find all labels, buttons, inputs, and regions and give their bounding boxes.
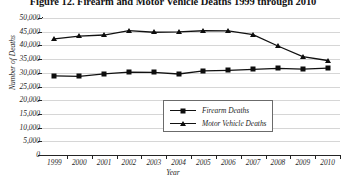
y-tick-mark: [38, 32, 42, 33]
legend-entry-motor-vehicle-deaths: Motor Vehicle Deaths: [164, 117, 272, 130]
legend-marker-square-icon: [168, 105, 198, 117]
x-tick-mark: [340, 155, 341, 159]
y-tick-mark: [38, 87, 42, 88]
data-point-triangle-2007: [250, 31, 256, 36]
y-tick-label: 35,000: [0, 55, 40, 63]
data-point-triangle-1999: [51, 36, 57, 41]
data-point-square-2000: [77, 74, 82, 79]
data-point-square-2006: [226, 68, 231, 73]
y-tick-label: 10,000: [0, 124, 40, 132]
y-tick-label: 25,000: [0, 83, 40, 91]
y-tick-mark: [38, 45, 42, 46]
data-point-triangle-2003: [151, 29, 157, 34]
data-point-triangle-2004: [176, 29, 182, 34]
y-tick-label: 50,000: [0, 14, 40, 22]
data-point-square-2005: [201, 68, 206, 73]
data-point-square-2010: [325, 66, 330, 71]
y-tick-mark: [38, 128, 42, 129]
y-tick-label: 5,000: [0, 137, 40, 145]
data-point-square-2007: [251, 67, 256, 72]
data-point-triangle-2010: [325, 57, 331, 62]
data-point-triangle-2000: [76, 33, 82, 38]
legend-label-motor-vehicle-deaths: Motor Vehicle Deaths: [202, 119, 266, 128]
data-point-triangle-2006: [225, 28, 231, 33]
data-point-square-2008: [275, 66, 280, 71]
legend: Firearm Deaths Motor Vehicle Deaths: [163, 100, 273, 132]
data-point-triangle-2009: [300, 54, 306, 59]
y-tick-label: 40,000: [0, 41, 40, 49]
y-tick-label: 20,000: [0, 96, 40, 104]
y-tick-label: 30,000: [0, 69, 40, 77]
data-point-square-2009: [300, 67, 305, 72]
data-point-square-2003: [151, 70, 156, 75]
data-point-square-1999: [52, 73, 57, 78]
data-point-square-2004: [176, 71, 181, 76]
y-tick-label: 15,000: [0, 110, 40, 118]
y-tick-label: 45,000: [0, 28, 40, 36]
y-tick-mark: [38, 73, 42, 74]
y-tick-mark: [38, 18, 42, 19]
y-tick-mark: [38, 141, 42, 142]
y-tick-label: 0: [0, 151, 40, 159]
data-point-square-2002: [126, 70, 131, 75]
legend-label-firearm-deaths: Firearm Deaths: [202, 106, 249, 115]
y-tick-mark: [38, 59, 42, 60]
figure-container: Figure 12. Firearm and Motor Vehicle Dea…: [0, 0, 346, 179]
data-point-square-2001: [102, 71, 107, 76]
y-tick-mark: [38, 100, 42, 101]
data-point-triangle-2008: [275, 43, 281, 48]
series-markers: [0, 0, 346, 179]
data-point-triangle-2005: [200, 28, 206, 33]
y-tick-mark: [38, 114, 42, 115]
data-point-triangle-2002: [126, 28, 132, 33]
legend-entry-firearm-deaths: Firearm Deaths: [164, 104, 272, 117]
legend-marker-triangle-icon: [168, 118, 198, 130]
data-point-triangle-2001: [101, 32, 107, 37]
y-tick-mark: [38, 155, 42, 156]
x-tick-label: 2010: [313, 158, 343, 167]
